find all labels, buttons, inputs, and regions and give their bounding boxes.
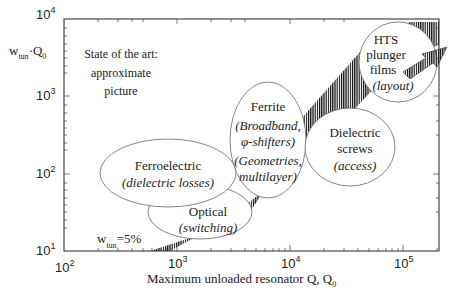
svg-text:films: films <box>370 62 397 77</box>
ferroelectric-region <box>100 139 236 207</box>
svg-text:φ-shifters): φ-shifters) <box>241 134 295 149</box>
wtun-5pct-label: wtun=5% <box>97 231 141 250</box>
svg-text:Ferrite: Ferrite <box>251 99 286 114</box>
svg-text:Dielectric: Dielectric <box>329 125 380 140</box>
svg-text:Ferroelectric: Ferroelectric <box>135 158 202 173</box>
svg-text:102: 102 <box>55 258 74 275</box>
x-axis-label: Maximum unloaded resonator Q, Q0 <box>147 271 336 289</box>
svg-text:State of the art:: State of the art: <box>84 47 158 61</box>
svg-text:103: 103 <box>168 254 187 271</box>
chart: 104 103 102 101 102 103 104 105 wtun·Q0 … <box>0 0 453 298</box>
svg-text:(switching): (switching) <box>179 220 238 235</box>
svg-text:plunger: plunger <box>366 47 406 62</box>
svg-text:104: 104 <box>36 5 55 22</box>
svg-text:102: 102 <box>36 164 55 181</box>
svg-text:(Geometries,: (Geometries, <box>234 153 302 168</box>
svg-text:multilayer): multilayer) <box>239 169 297 184</box>
svg-text:Optical: Optical <box>189 204 228 219</box>
svg-text:approximate: approximate <box>91 66 151 80</box>
y-axis-label: wtun·Q0 <box>9 43 46 61</box>
svg-text:103: 103 <box>36 86 55 103</box>
svg-text:104: 104 <box>281 254 300 271</box>
svg-text:screws: screws <box>337 141 372 156</box>
svg-text:105: 105 <box>394 254 413 271</box>
svg-text:(access): (access) <box>334 158 377 173</box>
state-of-art-note: State of the art: approximate picture <box>84 47 158 98</box>
svg-text:101: 101 <box>36 241 55 258</box>
svg-text:picture: picture <box>104 84 137 98</box>
svg-text:(Broadband,: (Broadband, <box>235 118 301 133</box>
svg-text:HTS: HTS <box>374 32 399 47</box>
svg-text:(layout): (layout) <box>372 78 413 93</box>
svg-text:(dielectric losses): (dielectric losses) <box>122 175 214 190</box>
